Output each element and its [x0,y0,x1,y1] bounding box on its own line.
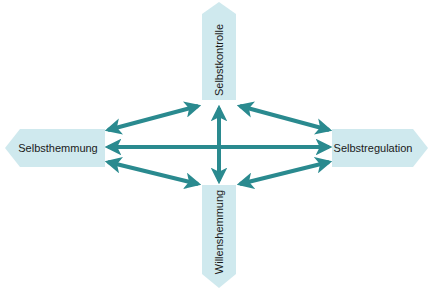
diagram-canvas: Selbstkontrolle Willenshemmung Selbsthem… [0,0,430,294]
node-label-right: Selbstregulation [334,142,413,154]
node-label-left: Selbsthemmung [18,142,98,154]
node-willenshemmung: Willenshemmung [202,185,236,288]
node-label-top: Selbstkontrolle [213,24,225,96]
arrow-selbsthemmung-willenshemmung [108,162,198,184]
node-selbstkontrolle: Selbstkontrolle [202,2,236,100]
node-selbstregulation: Selbstregulation [332,129,428,167]
node-label-bottom: Willenshemmung [213,190,225,274]
node-selbsthemmung: Selbsthemmung [5,129,105,167]
arrow-selbsthemmung-selbstkontrolle [108,106,198,130]
arrow-willenshemmung-selbstregulation [240,162,329,184]
arrow-selbstkontrolle-selbstregulation [240,106,329,130]
